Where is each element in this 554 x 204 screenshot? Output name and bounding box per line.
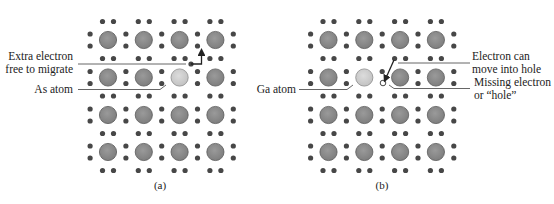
valence-electron [100,19,105,24]
lattice-atom [427,31,444,48]
valence-electron [136,93,141,98]
valence-electron [451,69,456,74]
valence-electron [308,69,313,74]
valence-electron [439,56,444,61]
valence-electron [367,168,372,173]
caption-b: (b) [376,179,389,192]
valence-electron [123,118,128,123]
valence-electron [111,19,116,24]
valence-electron [218,93,223,98]
lattice-atom [392,106,409,123]
lattice-atom [207,106,224,123]
semiconductor-doping-diagram: Extra electron free to migrate As atom (… [0,0,554,204]
lattice-atom [320,106,337,123]
valence-electron [380,43,385,48]
lattice-atom [99,31,116,48]
valence-electron [392,56,397,61]
valence-electron [195,31,200,36]
valence-electron [147,56,152,61]
valence-electron [451,81,456,86]
valence-electron [183,168,188,173]
valence-electron [195,106,200,111]
valence-electron [344,69,349,74]
valence-electron [159,81,164,86]
valence-electron [415,143,420,148]
valence-electron [392,19,397,24]
extra-electron-label-line2: free to migrate [5,63,73,76]
valence-electron [147,93,152,98]
lattice-atom [207,69,224,86]
lattice-atom [427,143,444,160]
valence-electron [415,118,420,123]
valence-electron [415,106,420,111]
as-atom-label: As atom [34,83,73,95]
valence-electron [111,93,116,98]
valence-electron [172,131,177,136]
valence-electron [207,131,212,136]
valence-electron [172,56,177,61]
valence-electron [159,31,164,36]
valence-electron [451,155,456,160]
valence-electron [344,143,349,148]
valence-electron [439,19,444,24]
valence-electron [344,106,349,111]
valence-electron [88,81,93,86]
caption-a: (a) [154,179,167,192]
valence-electron [367,93,372,98]
valence-electron [88,155,93,160]
valence-electron [207,168,212,173]
hole [380,80,386,86]
valence-electron [159,69,164,74]
lattice-atom [135,143,152,160]
valence-electron [403,56,408,61]
valence-electron [88,118,93,123]
electron-move-label-line1: Electron can [472,50,530,62]
lattice-atom [356,106,373,123]
valence-electron [123,31,128,36]
lattice-atom [320,143,337,160]
valence-electron [356,131,361,136]
valence-electron [344,81,349,86]
lattice-atom [427,69,444,86]
valence-electron [320,131,325,136]
lattice-atom [356,31,373,48]
valence-electron [123,143,128,148]
valence-electron [231,118,236,123]
valence-electron [403,19,408,24]
valence-electron [308,143,313,148]
valence-electron [207,19,212,24]
valence-electron [183,131,188,136]
valence-electron [218,56,223,61]
valence-electron [344,43,349,48]
valence-electron [428,93,433,98]
valence-electron [231,69,236,74]
valence-electron [356,19,361,24]
valence-electron [451,106,456,111]
lattice-atom [392,143,409,160]
lattice-atom [99,69,116,86]
valence-electron [439,131,444,136]
valence-electron [183,93,188,98]
lattice-atom [356,143,373,160]
lattice-atom [135,31,152,48]
valence-electron [123,106,128,111]
valence-electron [172,93,177,98]
valence-electron [88,31,93,36]
ga-atom-label: Ga atom [257,83,296,95]
missing-electron-label-line1: Missing electron [474,76,551,89]
valence-electron [367,131,372,136]
valence-electron [195,118,200,123]
valence-electron [428,131,433,136]
valence-electron [392,168,397,173]
valence-electron [195,155,200,160]
valence-electron [308,31,313,36]
valence-electron [111,168,116,173]
valence-electron [218,131,223,136]
valence-electron [308,118,313,123]
valence-electron [88,69,93,74]
valence-electron [218,168,223,173]
valence-electron [428,168,433,173]
valence-electron [231,143,236,148]
valence-electron [367,56,372,61]
valence-electron [183,19,188,24]
